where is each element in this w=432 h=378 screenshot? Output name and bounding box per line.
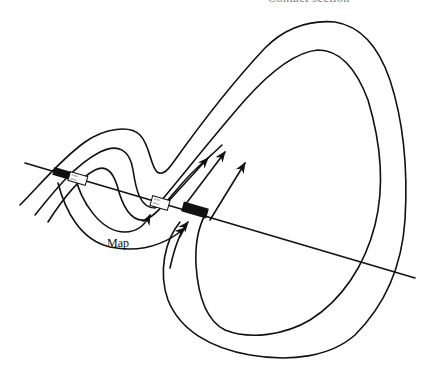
arrow-5 [170,222,188,268]
inner-contact-line [35,50,380,335]
fold-diagram: ≈≈≈ ≈≈≈ ≈≈≈ ≈≈≈ Map [0,0,432,378]
outcrop-solid-center [181,202,209,219]
map-label: Map [107,236,129,250]
outer-contact-line [20,22,406,358]
outcrop-patterned-left: ≈≈≈ ≈≈≈ [68,172,88,186]
arrow-4 [210,163,245,220]
